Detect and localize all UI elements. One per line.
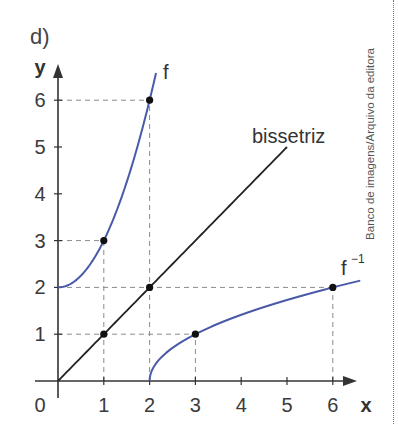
bisector-line <box>58 147 287 381</box>
x-tick-label: 4 <box>236 394 247 416</box>
curve-f-inverse <box>150 281 361 381</box>
y-tick-label: 5 <box>34 136 45 158</box>
y-axis-label: y <box>34 56 46 78</box>
data-point <box>100 331 107 338</box>
x-tick-label: 1 <box>98 394 109 416</box>
label-bissetriz: bissetriz <box>252 125 325 147</box>
y-tick-label: 2 <box>34 276 45 298</box>
y-axis-arrow-icon <box>53 64 63 78</box>
label-f-inverse-superscript: −1 <box>351 252 365 266</box>
y-tick-label: 6 <box>34 89 45 111</box>
function-inverse-chart: 0123456123456xy fbissetrizf−1 <box>0 0 398 424</box>
x-tick-label: 5 <box>281 394 292 416</box>
y-tick-label: 4 <box>34 183 45 205</box>
label-f-inverse: f <box>341 257 347 279</box>
data-point <box>100 237 107 244</box>
curve-f <box>58 73 156 287</box>
y-tick-label: 1 <box>34 323 45 345</box>
x-tick-label: 3 <box>190 394 201 416</box>
data-point <box>192 331 199 338</box>
axes: 0123456123456xy <box>34 56 371 416</box>
x-tick-label: 0 <box>34 394 45 416</box>
x-tick-label: 2 <box>144 394 155 416</box>
data-point <box>146 284 153 291</box>
data-point <box>329 284 336 291</box>
y-tick-label: 3 <box>34 230 45 252</box>
x-axis-label: x <box>360 394 371 416</box>
data-point <box>146 97 153 104</box>
x-tick-label: 6 <box>327 394 338 416</box>
label-f: f <box>163 61 169 83</box>
x-axis-arrow-icon <box>343 376 357 386</box>
